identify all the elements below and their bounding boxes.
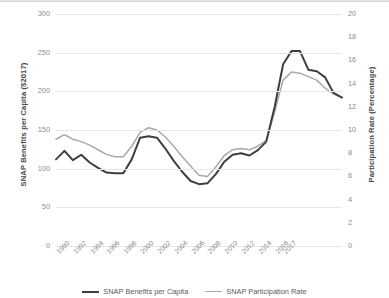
chart-legend: SNAP Benefits per CapitaSNAP Participati…	[0, 287, 389, 296]
y-axis-left-tick: 100	[10, 164, 50, 173]
plot-area: 05010015020025030002468101214161820	[56, 14, 342, 246]
x-axis: 1990199219941996199820002002200420062008…	[56, 247, 342, 287]
legend-item[interactable]: SNAP Benefits per Capita	[82, 287, 188, 296]
y-axis-right-tick: 0	[348, 241, 388, 250]
legend-label: SNAP Participation Rate	[226, 287, 306, 296]
y-axis-right-tick: 4	[348, 195, 388, 204]
y-axis-right-tick: 14	[348, 79, 388, 88]
gridline	[56, 14, 342, 15]
legend-item[interactable]: SNAP Participation Rate	[205, 287, 306, 296]
gridline	[56, 53, 342, 54]
gridline	[56, 130, 342, 131]
line-participation-rate	[56, 72, 342, 176]
legend-swatch	[82, 291, 99, 293]
gridline	[56, 207, 342, 208]
line-benefits-per-capita	[56, 51, 342, 184]
y-axis-right-tick: 16	[348, 55, 388, 64]
y-axis-right-tick: 6	[348, 171, 388, 180]
legend-label: SNAP Benefits per Capita	[103, 287, 188, 296]
y-axis-left-tick: 300	[10, 9, 50, 18]
gridline	[56, 91, 342, 92]
y-axis-left-tick: 250	[10, 48, 50, 57]
page-top-rule	[0, 0, 389, 2]
y-axis-left-tick: 50	[10, 202, 50, 211]
snap-line-chart: SNAP Benefits per Capita ($2017) Partici…	[0, 4, 389, 298]
y-axis-right-tick: 20	[348, 9, 388, 18]
legend-swatch	[205, 291, 222, 292]
y-axis-right-tick: 12	[348, 102, 388, 111]
gridline	[56, 169, 342, 170]
y-axis-left-tick: 200	[10, 86, 50, 95]
y-axis-left-tick: 150	[10, 125, 50, 134]
y-axis-left-tick: 0	[10, 241, 50, 250]
y-axis-right-tick: 10	[348, 125, 388, 134]
y-axis-right-tick: 8	[348, 148, 388, 157]
y-axis-right-tick: 2	[348, 218, 388, 227]
y-axis-right-tick: 18	[348, 32, 388, 41]
